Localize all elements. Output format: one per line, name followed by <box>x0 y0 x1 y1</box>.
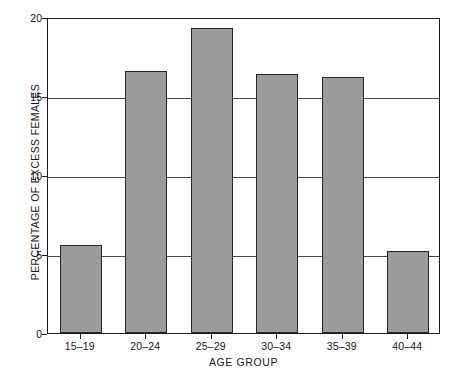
x-axis-title: AGE GROUP <box>47 356 440 368</box>
gridline <box>48 256 439 257</box>
bar-chart: PERCENTAGE OF EXCESS FEMALES 05101520 15… <box>0 0 458 373</box>
plot-area <box>47 18 440 334</box>
y-axis-tick-labels: 05101520 <box>0 18 42 334</box>
x-axis-tick <box>407 334 408 339</box>
y-axis-tick <box>42 176 47 177</box>
y-axis-tick-label: 20 <box>8 12 42 24</box>
gridline <box>48 98 439 99</box>
y-axis-tick-label: 10 <box>8 170 42 182</box>
y-axis-tick <box>42 97 47 98</box>
gridline <box>48 177 439 178</box>
x-axis-tick <box>276 334 277 339</box>
bar <box>322 77 364 333</box>
plot-inner <box>48 19 439 333</box>
bar <box>256 74 298 333</box>
bar <box>125 71 167 333</box>
x-axis-tick <box>211 334 212 339</box>
x-axis-tick <box>145 334 146 339</box>
x-axis-tick <box>80 334 81 339</box>
y-axis-tick-label: 0 <box>8 328 42 340</box>
x-axis-tick-label: 40–44 <box>392 340 422 352</box>
bar <box>387 251 429 333</box>
x-axis-tick-label: 35–39 <box>327 340 357 352</box>
x-axis-tick-label: 25–29 <box>196 340 226 352</box>
y-axis-tick-label: 15 <box>8 91 42 103</box>
bar <box>191 28 233 333</box>
x-axis-tick-label: 20–24 <box>130 340 160 352</box>
y-axis-tick-label: 5 <box>8 249 42 261</box>
x-axis-tick-label: 15–19 <box>65 340 95 352</box>
x-axis-tick-label: 30–34 <box>261 340 291 352</box>
y-axis-tick <box>42 334 47 335</box>
x-axis-tick <box>342 334 343 339</box>
bar <box>60 245 102 333</box>
y-axis-tick <box>42 18 47 19</box>
y-axis-tick <box>42 255 47 256</box>
